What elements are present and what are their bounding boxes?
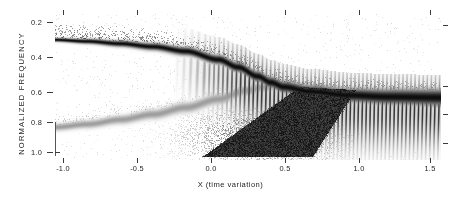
figure-spectrogram: 0.2 0.4 0.6 0.8 1.0 -1.0 -0.5 0.0 0.5 1.… bbox=[0, 0, 461, 199]
xtick-label-0: -1.0 bbox=[43, 164, 83, 173]
xtick-label-1: -0.5 bbox=[117, 164, 157, 173]
tick-left-3 bbox=[47, 92, 53, 93]
tick-left-2 bbox=[47, 57, 53, 58]
tick-left-5 bbox=[47, 152, 53, 153]
x-axis-title: X (time variation) bbox=[0, 180, 461, 189]
tick-left-4 bbox=[47, 122, 53, 123]
xtick-label-4: 1.0 bbox=[339, 164, 379, 173]
xtick-label-2: 0.0 bbox=[191, 164, 231, 173]
xtick-label-5: 1.5 bbox=[410, 164, 450, 173]
xtick-label-3: 0.5 bbox=[265, 164, 305, 173]
y-axis-title: NORMALIZED FREQUENCY bbox=[17, 19, 26, 169]
tick-right-4 bbox=[443, 143, 448, 144]
tick-left-1 bbox=[47, 22, 53, 23]
spectrogram-canvas bbox=[55, 14, 441, 160]
plot-area bbox=[55, 14, 441, 160]
tick-right-2 bbox=[443, 86, 448, 87]
tick-right-3 bbox=[443, 114, 448, 115]
tick-right-1 bbox=[443, 25, 448, 26]
